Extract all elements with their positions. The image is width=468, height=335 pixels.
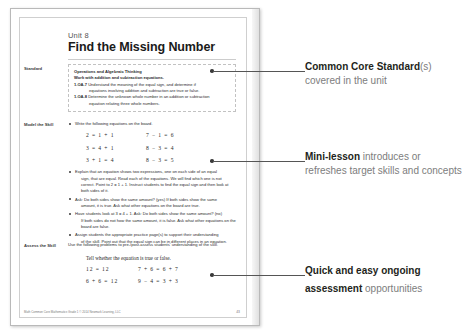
- page-number: 43: [236, 310, 240, 314]
- callout-line-1: Mini-lesson introduces or: [305, 146, 463, 164]
- page-title: Find the Missing Number: [68, 40, 215, 54]
- equation: 12 = 12: [86, 266, 138, 272]
- bullet-text: Ask: Do both sides show the same amount?…: [75, 197, 217, 202]
- callout-bold-text: Mini-lesson: [305, 151, 360, 162]
- callout-line-1: Quick and easy ongoing: [305, 260, 463, 278]
- assess-the-skill-section: Use the following problems to pre-/post-…: [68, 242, 236, 290]
- bullet-dot-icon: [69, 123, 71, 125]
- model-equations-grid: 2 = 1 + 1 7 − 1 = 6 3 = 4 + 1 8 − 3 = 4 …: [86, 132, 236, 163]
- callout-line-2: covered in the unit: [305, 74, 463, 87]
- equation: 3 + 1 = 4: [86, 157, 146, 163]
- equation: 7 + 6 = 6 + 7: [138, 266, 200, 272]
- callout-line-2: assessment opportunities: [305, 278, 463, 296]
- callout-bold-text: assessment: [305, 283, 362, 294]
- textbook-page-preview: Unit 8 Find the Missing Number Standard …: [10, 8, 260, 326]
- equation: 2 = 1 + 1: [86, 132, 146, 138]
- callout-leader-line-mini-lesson: [213, 161, 305, 162]
- bullet-text: Explain that an equation shows two expre…: [75, 169, 217, 174]
- callout-line-2: refreshes target skills and concepts: [305, 164, 463, 177]
- bullet-text: Write the following equations on the boa…: [75, 121, 153, 126]
- equation: 8 − 3 = 5: [146, 157, 206, 163]
- assess-prompt: Tell whether the equation is true or fal…: [86, 255, 236, 261]
- standard-code: 1.OA.7: [74, 82, 87, 87]
- bullet-item: Explain that an equation shows two expre…: [68, 169, 236, 194]
- callout-leader-line-assessment: [213, 275, 305, 276]
- model-the-skill-section: Write the following equations on the boa…: [68, 121, 236, 247]
- standard-text: Understand the meaning of the equal sign…: [88, 82, 196, 87]
- standard-text: Determine the unknown whole number in an…: [88, 94, 210, 99]
- callout-common-core-standard: Common Core Standard(s) covered in the u…: [305, 56, 463, 87]
- unit-label: Unit 8: [68, 31, 89, 40]
- bullet-dot-icon: [69, 234, 71, 236]
- callout-bold-text: Quick and easy ongoing: [305, 265, 421, 276]
- bullet-text-continuation: sign, that are equal. Read each of the e…: [75, 176, 236, 195]
- section-label-standard: Standard: [24, 66, 66, 71]
- bullet-item: Ask: Do both sides show the same amount?…: [68, 197, 236, 210]
- bullet-dot-icon: [69, 171, 71, 173]
- header-divider: [68, 59, 236, 60]
- bullet-text: Assign students the appropriate practice…: [75, 232, 219, 237]
- equation: 6 + 6 = 12: [86, 278, 138, 284]
- standard-item: 1.OA.8 Determine the unknown whole numbe…: [74, 94, 230, 100]
- equation: 7 − 1 = 6: [146, 132, 206, 138]
- bullet-item: Have students look at 3 = 4 + 1. Ask: Do…: [68, 211, 236, 230]
- section-label-model-the-skill: Model the Skill: [24, 122, 66, 127]
- bullet-item: Write the following equations on the boa…: [68, 121, 236, 127]
- standard-code: 1.OA.8: [74, 94, 87, 99]
- callout-bold-text: Common Core Standard: [305, 61, 420, 72]
- callout-assessment: Quick and easy ongoing assessment opport…: [305, 260, 463, 296]
- callout-line-1: Common Core Standard(s): [305, 56, 463, 74]
- bullet-text-continuation: amount, it is true. Ask what other equat…: [75, 203, 236, 209]
- callout-light-text: opportunities: [362, 283, 422, 294]
- equation: 3 = 4 + 1: [86, 145, 146, 151]
- standard-item-continuation: equation relating three whole numbers.: [74, 101, 230, 107]
- bullet-dot-icon: [69, 198, 71, 200]
- callout-mini-lesson: Mini-lesson introduces or refreshes targ…: [305, 146, 463, 177]
- callout-light-text: introduces or: [360, 151, 421, 162]
- bullet-text: Have students look at 3 = 4 + 1. Ask: Do…: [75, 211, 222, 216]
- equation: 9 − 4 = 3 + 3: [138, 278, 200, 284]
- footer-credit: Math Common Core Mathematics Grade 1 © 2…: [24, 310, 121, 314]
- equation: 8 − 3 = 4: [146, 145, 206, 151]
- callout-light-text: (s): [420, 61, 432, 72]
- bullet-text-continuation: If both sides do not how the same amount…: [75, 218, 236, 231]
- bullet-dot-icon: [69, 213, 71, 215]
- callout-leader-line-standard: [213, 71, 305, 72]
- section-label-assess-the-skill: Assess the Skill: [24, 243, 66, 248]
- assess-intro-text: Use the following problems to pre-/post-…: [68, 242, 236, 248]
- page-footer: Math Common Core Mathematics Grade 1 © 2…: [24, 310, 240, 314]
